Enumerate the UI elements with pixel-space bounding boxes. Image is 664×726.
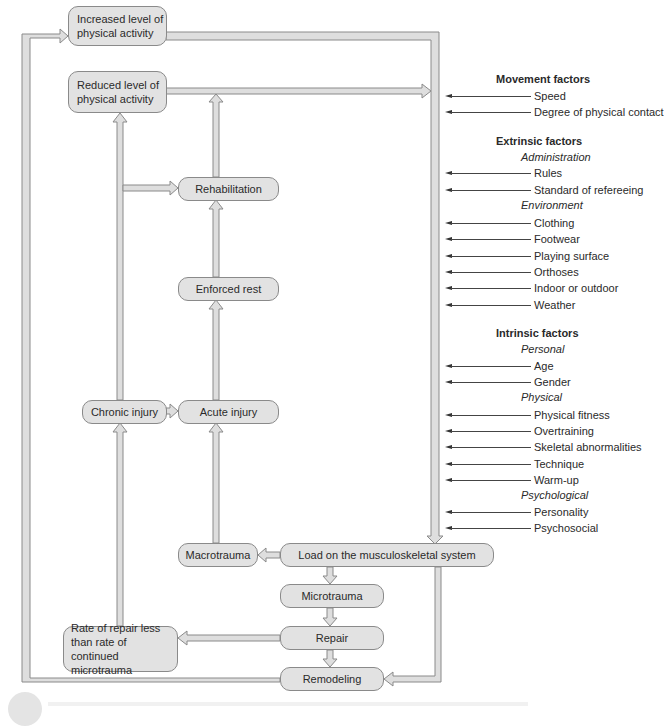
reduced-activity-label: Reduced level of physical activity xyxy=(77,78,159,106)
chronic-injury-label: Chronic injury xyxy=(91,405,158,419)
acute-to-rest-arrow xyxy=(209,300,223,400)
micro-to-repair-arrow xyxy=(323,608,337,626)
psychological-subheading: Psychological xyxy=(521,489,588,501)
acute-injury-box: Acute injury xyxy=(178,400,279,424)
load-box: Load on the musculoskeletal system xyxy=(280,543,494,567)
increased-activity-label: Increased level of physical activity xyxy=(77,12,163,40)
load-to-macro-arrow xyxy=(258,548,280,562)
faint-caption-bar xyxy=(48,702,528,706)
intrinsic-factors-heading: Intrinsic factors xyxy=(496,327,579,339)
reduced-activity-box: Reduced level of physical activity xyxy=(68,71,167,113)
chronic-injury-box: Chronic injury xyxy=(82,400,167,424)
movement-factors-heading: Movement factors xyxy=(496,73,590,85)
rehab-to-reduced-arrow xyxy=(209,94,223,177)
acute-injury-label: Acute injury xyxy=(200,405,257,419)
loop-remodeling-to-increased-arrow xyxy=(22,29,280,682)
repair-label: Repair xyxy=(316,631,348,645)
personal-subheading: Personal xyxy=(521,343,564,355)
load-label: Load on the musculoskeletal system xyxy=(298,548,475,562)
repair-to-rate-arrow xyxy=(178,631,280,645)
rate-of-repair-box: Rate of repair less than rate of continu… xyxy=(63,626,178,672)
rate-of-repair-label: Rate of repair less than rate of continu… xyxy=(71,621,177,677)
load-to-micro-arrow xyxy=(323,567,337,584)
load-to-remodel-arrow xyxy=(384,567,441,686)
extrinsic-factors-heading: Extrinsic factors xyxy=(496,135,582,147)
reduced-to-factors-arrow xyxy=(166,84,431,98)
macrotrauma-label: Macrotrauma xyxy=(186,548,251,562)
enforced-rest-label: Enforced rest xyxy=(196,282,261,296)
microtrauma-box: Microtrauma xyxy=(280,584,384,608)
repair-to-remodel-arrow xyxy=(323,650,337,667)
decorative-circle xyxy=(8,692,42,726)
chronic-to-reduced-arrow xyxy=(113,113,127,400)
environment-subheading: Environment xyxy=(521,199,583,211)
administration-subheading: Administration xyxy=(521,151,591,163)
rehabilitation-box: Rehabilitation xyxy=(178,177,279,201)
chronic-to-acute-arrow xyxy=(166,404,178,418)
chronic-to-rehab-arrow xyxy=(123,181,178,195)
macro-to-acute-arrow xyxy=(209,423,223,543)
rehabilitation-label: Rehabilitation xyxy=(195,182,262,196)
enforced-rest-box: Enforced rest xyxy=(178,277,279,301)
macrotrauma-box: Macrotrauma xyxy=(178,543,258,567)
physical-subheading: Physical xyxy=(521,391,562,403)
repair-box: Repair xyxy=(280,626,384,650)
remodeling-label: Remodeling xyxy=(303,672,362,686)
rate-to-chronic-arrow xyxy=(113,423,127,626)
microtrauma-label: Microtrauma xyxy=(301,589,362,603)
rest-to-rehab-arrow xyxy=(209,200,223,277)
remodeling-box: Remodeling xyxy=(280,667,384,691)
increased-activity-box: Increased level of physical activity xyxy=(68,6,167,46)
